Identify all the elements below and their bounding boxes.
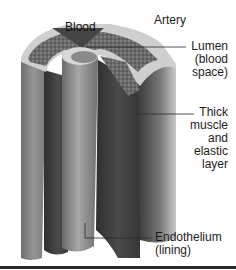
bottom-rule xyxy=(0,266,236,269)
outer-wall-right xyxy=(138,62,176,243)
diagram-title: Artery xyxy=(154,13,186,27)
label-muscle-layer: Thick muscle and elastic layer xyxy=(190,106,228,171)
endothelium-core xyxy=(62,54,98,252)
label-lumen: Lumen (blood space) xyxy=(191,40,228,79)
blood-label: Blood xyxy=(65,20,96,34)
label-endothelium: Endothelium (lining) xyxy=(155,231,222,257)
outer-wall-left xyxy=(21,58,46,260)
lumen-opening xyxy=(62,47,98,65)
